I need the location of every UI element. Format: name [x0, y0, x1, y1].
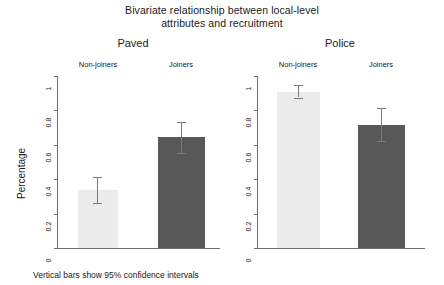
y-tick-label-police-0: 0 [245, 252, 252, 270]
y-tick-paved-0.2 [54, 214, 57, 215]
chart-title-line-1: Bivariate relationship between local-lev… [0, 4, 444, 17]
chart-title: Bivariate relationship between local-lev… [0, 4, 444, 30]
error-cap-bottom-police-joiners [377, 141, 386, 142]
bar-paved-non-joiners [78, 190, 118, 248]
y-tick-label-police-0.8: 0.8 [245, 114, 252, 132]
y-tick-label-police-0.6: 0.6 [245, 149, 252, 167]
error-bar-police-non-joiners [298, 85, 299, 97]
error-cap-top-police-joiners [377, 108, 386, 109]
y-tick-police-0.4 [254, 179, 257, 180]
y-tick-label-paved-1: 1 [45, 80, 52, 98]
panel-title-police: Police [325, 37, 355, 49]
y-tick-label-police-0.4: 0.4 [245, 183, 252, 201]
bar-paved-joiners [158, 137, 205, 248]
error-bar-paved-joiners [181, 122, 182, 153]
x-axis-line-police [257, 248, 425, 249]
y-tick-police-1 [254, 76, 257, 77]
group-label-paved-non-joiners: Non-joiners [79, 60, 117, 69]
group-label-police-non-joiners: Non-joiners [279, 60, 317, 69]
y-axis-line-police [257, 76, 258, 249]
y-tick-police-0 [254, 248, 257, 249]
y-tick-paved-1 [54, 76, 57, 77]
y-tick-paved-0.8 [54, 110, 57, 111]
group-label-police-joiners: Joiners [369, 60, 393, 69]
y-tick-police-0.6 [254, 145, 257, 146]
y-tick-police-0.8 [254, 110, 257, 111]
error-cap-bottom-paved-non-joiners [93, 203, 102, 204]
error-cap-bottom-paved-joiners [177, 153, 186, 154]
chart-footnote: Vertical bars show 95% confidence interv… [33, 270, 199, 280]
error-bar-police-joiners [381, 108, 382, 142]
y-tick-paved-0 [54, 248, 57, 249]
chart-title-line-2: attributes and recruitment [0, 17, 444, 30]
y-axis-label: Percentage [16, 148, 27, 199]
y-tick-label-paved-0.4: 0.4 [45, 183, 52, 201]
error-cap-top-police-non-joiners [294, 85, 303, 86]
x-axis-line-paved [57, 248, 220, 249]
y-tick-police-0.2 [254, 214, 257, 215]
y-axis-line-paved [57, 76, 58, 249]
bar-police-non-joiners [277, 92, 320, 248]
y-tick-label-paved-0.6: 0.6 [45, 149, 52, 167]
y-tick-label-paved-0.8: 0.8 [45, 114, 52, 132]
y-tick-paved-0.4 [54, 179, 57, 180]
panel-title-paved: Paved [117, 37, 148, 49]
error-bar-paved-non-joiners [97, 177, 98, 204]
chart-figure: Bivariate relationship between local-lev… [0, 0, 444, 285]
error-cap-top-paved-joiners [177, 122, 186, 123]
group-label-paved-joiners: Joiners [169, 60, 193, 69]
error-cap-bottom-police-non-joiners [294, 98, 303, 99]
bar-police-joiners [358, 125, 405, 248]
y-tick-label-paved-0: 0 [45, 252, 52, 270]
y-tick-paved-0.6 [54, 145, 57, 146]
y-tick-label-paved-0.2: 0.2 [45, 218, 52, 236]
y-tick-label-police-1: 1 [245, 80, 252, 98]
y-tick-label-police-0.2: 0.2 [245, 218, 252, 236]
error-cap-top-paved-non-joiners [93, 177, 102, 178]
